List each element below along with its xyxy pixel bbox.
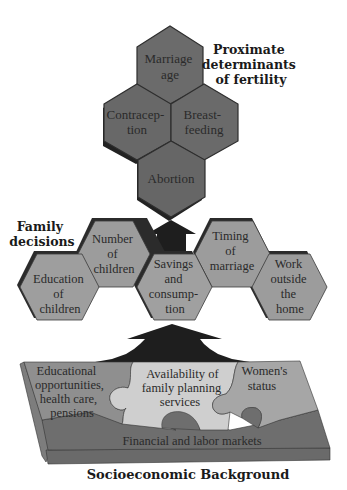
title-socioeconomic-background: Socioeconomic Background xyxy=(87,467,290,482)
label-financial-labor-markets: Financial and labor markets xyxy=(122,434,261,448)
fertility-determinants-diagram: Marriage age Contracep- tion Breast- fee… xyxy=(0,0,347,490)
socioeconomic-slab: Educational opportunities, health care, … xyxy=(20,361,330,464)
label-breastfeeding: Breast- feeding xyxy=(184,107,225,137)
label-abortion: Abortion xyxy=(148,171,195,186)
lower-arrow xyxy=(95,324,250,362)
title-family-decisions: Family decisions xyxy=(9,219,74,249)
title-proximate-determinants: Proximate determinants of fertility xyxy=(202,42,300,87)
